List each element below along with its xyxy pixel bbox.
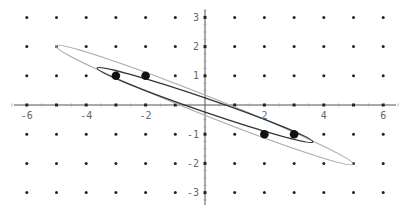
lattice-dot (25, 16, 28, 19)
lattice-dot (114, 191, 117, 194)
y-tick-label: 2 (193, 41, 199, 52)
lattice-dot (55, 162, 58, 165)
y-major-tick (204, 133, 207, 136)
lattice-dot (174, 133, 177, 136)
lattice-dot (85, 74, 88, 77)
lattice-dot (382, 45, 385, 48)
x-major-tick (25, 104, 28, 107)
lattice-dot (263, 74, 266, 77)
lattice-dot (352, 133, 355, 136)
lattice-dot (174, 191, 177, 194)
lattice-dot (322, 74, 325, 77)
lattice-dot (55, 133, 58, 136)
x-major-tick (352, 104, 355, 107)
lattice-dot (293, 191, 296, 194)
y-tick-label: -3 (187, 187, 199, 198)
x-tick-label: 6 (380, 110, 386, 121)
lattice-dot (382, 191, 385, 194)
ellipse-plot: -6-4-2246321-1-2-3 (0, 0, 411, 212)
lattice-dot (25, 133, 28, 136)
lattice-dot (233, 191, 236, 194)
y-tick-label: 3 (193, 12, 199, 23)
lattice-dot (114, 162, 117, 165)
lattice-dot (263, 191, 266, 194)
data-point (141, 72, 150, 81)
lattice-dot (55, 16, 58, 19)
lattice-dot (144, 45, 147, 48)
y-major-tick (204, 16, 207, 19)
x-major-tick (114, 104, 117, 107)
y-major-tick (204, 162, 207, 165)
lattice-dot (114, 133, 117, 136)
y-tick-label: 1 (193, 70, 199, 81)
x-tick-label: -2 (140, 110, 152, 121)
lattice-dot (114, 16, 117, 19)
y-tick-label: -1 (187, 129, 199, 140)
lattice-dot (233, 74, 236, 77)
lattice-dot (293, 74, 296, 77)
data-point (260, 130, 269, 139)
lattice-dot (293, 16, 296, 19)
lattice-dot (233, 45, 236, 48)
lattice-dot (25, 74, 28, 77)
lattice-dot (263, 45, 266, 48)
x-major-tick (55, 104, 58, 107)
lattice-dot (85, 45, 88, 48)
x-major-tick (322, 104, 325, 107)
lattice-dot (25, 191, 28, 194)
y-major-tick (204, 74, 207, 77)
lattice-dot (322, 16, 325, 19)
lattice-dot (55, 191, 58, 194)
y-major-tick (204, 45, 207, 48)
x-major-tick (263, 104, 266, 107)
x-tick-label: 4 (321, 110, 327, 121)
lattice-dot (25, 45, 28, 48)
x-tick-label: 2 (261, 110, 267, 121)
lattice-dot (382, 162, 385, 165)
lattice-dot (382, 133, 385, 136)
lattice-dot (85, 162, 88, 165)
lattice-dot (233, 16, 236, 19)
lattice-dot (263, 16, 266, 19)
lattice-dot (352, 45, 355, 48)
lattice-dot (174, 74, 177, 77)
y-tick-label: -2 (187, 158, 199, 169)
data-point (112, 72, 121, 81)
lattice-dot (322, 133, 325, 136)
lattice-dot (293, 162, 296, 165)
lattice-dot (322, 191, 325, 194)
lattice-dot (263, 162, 266, 165)
lattice-dot (174, 162, 177, 165)
lattice-dot (322, 45, 325, 48)
lattice-dot (174, 16, 177, 19)
lattice-dot (85, 191, 88, 194)
data-point (290, 130, 299, 139)
y-major-tick (204, 191, 207, 194)
lattice-dot (174, 45, 177, 48)
lattice-dot (352, 191, 355, 194)
lattice-dot (144, 162, 147, 165)
x-major-tick (382, 104, 385, 107)
lattice-dot (55, 74, 58, 77)
x-major-tick (293, 104, 296, 107)
lattice-dot (382, 74, 385, 77)
lattice-dot (25, 162, 28, 165)
lattice-dot (144, 191, 147, 194)
lattice-dot (144, 133, 147, 136)
x-major-tick (85, 104, 88, 107)
lattice-dot (233, 133, 236, 136)
lattice-dot (293, 45, 296, 48)
lattice-dot (85, 16, 88, 19)
lattice-dot (352, 16, 355, 19)
lattice-dot (233, 162, 236, 165)
x-tick-label: -6 (21, 110, 33, 121)
lattice-dot (144, 16, 147, 19)
lattice-dot (85, 133, 88, 136)
lattice-dot (382, 16, 385, 19)
lattice-dot (114, 45, 117, 48)
x-major-tick (144, 104, 147, 107)
lattice-dot (352, 74, 355, 77)
lattice-dot (322, 162, 325, 165)
x-tick-label: -4 (80, 110, 92, 121)
